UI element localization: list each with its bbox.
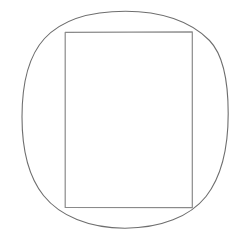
circle-shape <box>22 11 228 228</box>
geometry-figure: Rectangle inscribed in a circle <box>0 0 247 240</box>
figure-canvas: Rectangle inscribed in a circle <box>0 0 247 240</box>
rectangle-shape <box>65 32 192 208</box>
